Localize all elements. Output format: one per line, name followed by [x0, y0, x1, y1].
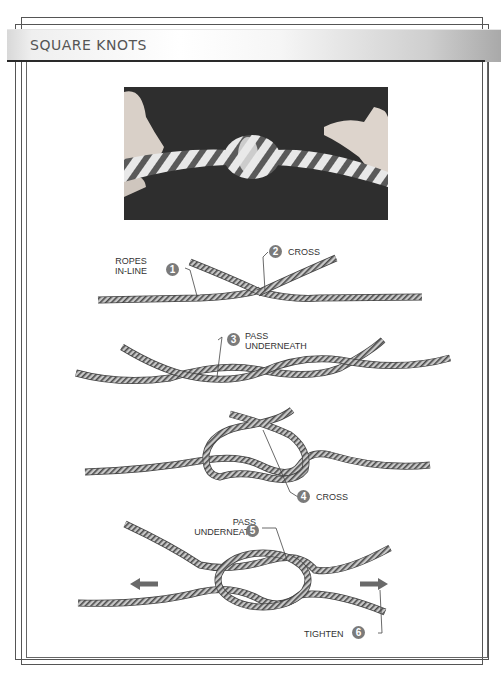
step-5-label-line2: UNDERNEATH [172, 527, 256, 537]
step-6-badge: 6 [352, 626, 365, 639]
step-3-label: PASS UNDERNEATH [245, 331, 307, 351]
arrow-right-icon [358, 578, 388, 590]
step-3-badge: 3 [227, 333, 240, 346]
step-5-label: PASS UNDERNEATH [172, 517, 256, 537]
diagram-step-4 [85, 410, 430, 497]
step-4-label: CROSS [316, 492, 348, 502]
step-5-badge: 5 [246, 524, 259, 537]
step-1-label: ROPES IN-LINE [115, 256, 147, 276]
step-2-badge: 2 [269, 245, 282, 258]
step-6-label: TIGHTEN [304, 629, 344, 639]
diagram-step-5-6 [78, 524, 390, 633]
arrow-left-icon [130, 578, 160, 590]
step-2-label: CROSS [288, 247, 320, 257]
step-3-label-line1: PASS [245, 331, 307, 341]
step-5-label-line1: PASS [172, 517, 256, 527]
step-1-badge: 1 [166, 263, 179, 276]
step-1-label-line2: IN-LINE [115, 266, 147, 276]
step-1-label-line1: ROPES [115, 256, 147, 266]
step-3-label-line2: UNDERNEATH [245, 341, 307, 351]
step-4-badge: 4 [297, 490, 310, 503]
